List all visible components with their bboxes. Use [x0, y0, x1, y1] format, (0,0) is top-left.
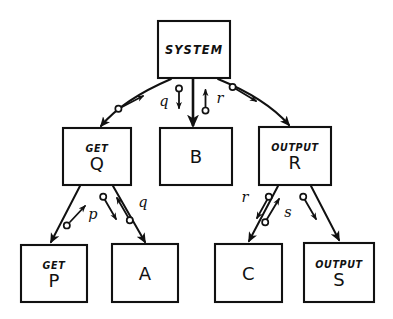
edge-system-to-b: [176, 79, 209, 126]
node-label-a: A: [139, 263, 152, 284]
pin-circle: [100, 194, 106, 200]
edge-getq-to-getp: [51, 186, 85, 242]
node-label-c: C: [242, 263, 255, 284]
edge-arrow-getq-getp: [51, 186, 80, 242]
node-label-system: SYSTEM: [165, 43, 223, 57]
node-get_q[interactable]: GETQ: [63, 128, 131, 185]
edge-label-s-right: s: [284, 204, 291, 220]
node-a[interactable]: A: [112, 244, 178, 302]
pin-circle: [127, 217, 133, 223]
pin-circle: [300, 194, 306, 200]
up-pin-a-getq: [117, 198, 133, 223]
edge-label-q-top: q: [159, 93, 168, 109]
node-label-out_r: R: [289, 152, 302, 173]
edge-outr-to-c: [249, 186, 279, 241]
node-label-get_p: P: [48, 270, 59, 291]
edge-label-p-left: p: [88, 206, 97, 222]
node-label-out_s: S: [333, 269, 345, 290]
pin-circle: [64, 222, 70, 228]
edge-outr-to-outs: [300, 186, 339, 240]
down-pin-system-b: [176, 85, 182, 108]
pin-circle: [262, 219, 268, 225]
pin-circle: [230, 84, 236, 90]
diagram-canvas: q r p q r s SYSTEMGETQBOUTPUTRGETPACOUTP…: [0, 0, 393, 319]
return-pin-system-outr: [230, 84, 257, 101]
down-pin-outr-outs: [300, 194, 316, 219]
node-c[interactable]: C: [215, 244, 282, 302]
nodes-layer: SYSTEMGETQBOUTPUTRGETPACOUTPUTS: [21, 21, 374, 302]
return-pin-system-getq: [115, 96, 143, 112]
edge-arrow-system-outr: [218, 79, 289, 125]
pin-circle: [176, 85, 182, 91]
node-label-b: B: [190, 146, 203, 167]
node-system[interactable]: SYSTEM: [158, 21, 230, 78]
pin-circle: [202, 108, 208, 114]
edge-system-to-outr: [218, 79, 289, 125]
edge-arrow-outr-c: [249, 186, 278, 241]
node-out_r[interactable]: OUTPUTR: [259, 127, 331, 185]
diagram-svg: q r p q r s SYSTEMGETQBOUTPUTRGETPACOUTP…: [0, 0, 393, 319]
node-b[interactable]: B: [160, 128, 232, 185]
edge-label-r-right: r: [242, 189, 250, 205]
node-get_p[interactable]: GETP: [21, 245, 87, 302]
edge-label-r-top: r: [217, 90, 225, 106]
pin-circle: [115, 106, 121, 112]
pin-circle: [266, 194, 272, 200]
node-out_s[interactable]: OUTPUTS: [304, 243, 374, 302]
edge-label-q-left: q: [138, 194, 147, 210]
down-pin-getq-a: [100, 194, 116, 219]
up-pin-b-system: [202, 90, 208, 114]
node-label-get_q: Q: [90, 153, 104, 174]
edge-arrow-outr-outs: [311, 186, 339, 240]
